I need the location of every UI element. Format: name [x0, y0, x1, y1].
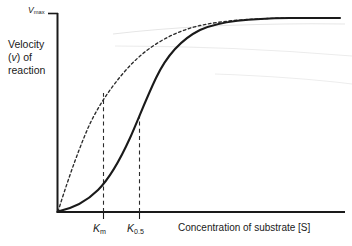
- x-axis-label: Concentration of substrate [S]: [178, 222, 310, 234]
- k05-label-subscript: 0.5: [134, 228, 144, 236]
- y-axis-label-line3: reaction: [8, 64, 45, 76]
- vmax-label-subscript: max: [34, 9, 45, 15]
- y-axis-label-line1: Velocity: [8, 38, 44, 50]
- km-label-subscript: m: [100, 228, 106, 236]
- y-axis-label-line2-post: ) of: [17, 51, 32, 63]
- km-label: Km: [93, 222, 106, 236]
- vmax-axis-label: Vmax: [28, 5, 45, 16]
- km-label-symbol: K: [93, 222, 100, 234]
- y-axis-label: Velocity (v) of reaction: [8, 38, 56, 76]
- plot-canvas: [0, 0, 352, 246]
- k05-label-symbol: K: [127, 222, 134, 234]
- enzyme-kinetics-chart: Vmax Velocity (v) of reaction Km K0.5 Co…: [0, 0, 352, 246]
- scan-artifact-lines: [113, 24, 352, 84]
- k05-label: K0.5: [127, 222, 144, 236]
